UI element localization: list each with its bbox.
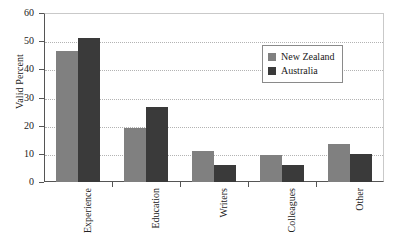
bar-colleagues-new-zealand: [260, 155, 282, 182]
x-tick-mark: [316, 182, 317, 187]
x-tick-mark: [112, 182, 113, 187]
x-tick-mark: [180, 182, 181, 187]
y-tick-mark: [39, 182, 44, 183]
bar-education-new-zealand: [124, 128, 146, 182]
legend-label-new-zealand: New Zealand: [281, 52, 335, 62]
bar-colleagues-australia: [282, 165, 304, 182]
bar-writers-new-zealand: [192, 151, 214, 182]
legend-item-new-zealand[interactable]: New Zealand: [268, 50, 335, 64]
y-tick-label: 40: [0, 64, 34, 74]
x-tick-mark: [248, 182, 249, 187]
y-tick-label: 10: [0, 149, 34, 159]
legend-swatch-icon-australia: [268, 67, 276, 75]
x-category-label-colleagues: Colleagues: [287, 188, 297, 247]
x-category-label-experience: Experience: [83, 188, 93, 247]
y-tick-label: 50: [0, 36, 34, 46]
legend-label-australia: Australia: [281, 66, 318, 76]
x-category-label-writers: Writers: [219, 188, 229, 247]
y-tick-label: 20: [0, 121, 34, 131]
legend-swatch-icon-new-zealand: [268, 53, 276, 61]
bars-layer: [44, 13, 384, 182]
y-tick-label: 30: [0, 93, 34, 103]
bar-other-australia: [350, 154, 372, 182]
bar-writers-australia: [214, 165, 236, 182]
x-category-label-education: Education: [151, 188, 161, 247]
legend-item-australia[interactable]: Australia: [268, 64, 335, 78]
bar-chart-figure: Valid Percent 0102030405060 ExperienceEd…: [0, 0, 397, 247]
bar-other-new-zealand: [328, 144, 350, 182]
bar-experience-australia: [78, 38, 100, 182]
y-tick-label: 0: [0, 177, 34, 187]
legend: New Zealand Australia: [262, 45, 343, 83]
bar-experience-new-zealand: [56, 51, 78, 182]
x-category-label-other: Other: [355, 188, 365, 247]
y-tick-label: 60: [0, 8, 34, 18]
bar-education-australia: [146, 107, 168, 182]
